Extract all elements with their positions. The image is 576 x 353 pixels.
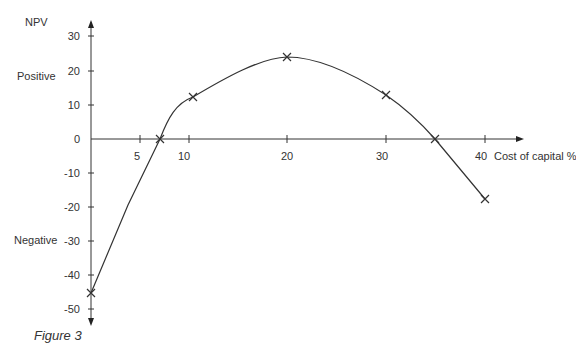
svg-text:30: 30	[376, 150, 388, 162]
npv-curve	[91, 57, 485, 293]
y-tick-labels: 30 20 10 0 -10 -20 -30 -40 -50	[64, 30, 80, 315]
y-axis-title: NPV	[25, 16, 48, 28]
x-axis-title: Cost of capital %	[494, 150, 576, 162]
svg-text:-50: -50	[64, 303, 80, 315]
negative-label: Negative	[14, 234, 57, 246]
svg-text:5: 5	[134, 150, 140, 162]
data-point-markers	[87, 53, 489, 297]
svg-text:-10: -10	[64, 167, 80, 179]
svg-text:-30: -30	[64, 235, 80, 247]
figure-caption: Figure 3	[34, 328, 82, 343]
svg-text:10: 10	[178, 150, 190, 162]
x-marker-icon	[382, 91, 390, 99]
y-axis-up-arrow-icon	[88, 20, 94, 28]
svg-text:10: 10	[68, 99, 80, 111]
x-marker-icon	[481, 195, 489, 203]
svg-text:20: 20	[68, 65, 80, 77]
svg-text:0: 0	[74, 133, 80, 145]
x-marker-icon	[189, 93, 197, 101]
x-axis-arrow-icon	[516, 136, 524, 142]
npv-chart: 30 20 10 0 -10 -20 -30 -40 -50 5 10 20 3…	[0, 0, 576, 353]
svg-text:-20: -20	[64, 201, 80, 213]
svg-text:-40: -40	[64, 269, 80, 281]
x-tick-labels: 5 10 20 30 40	[134, 150, 487, 162]
svg-text:20: 20	[281, 150, 293, 162]
y-axis-down-arrow-icon	[88, 318, 94, 326]
positive-label: Positive	[17, 70, 56, 82]
svg-text:30: 30	[68, 30, 80, 42]
svg-text:40: 40	[475, 150, 487, 162]
